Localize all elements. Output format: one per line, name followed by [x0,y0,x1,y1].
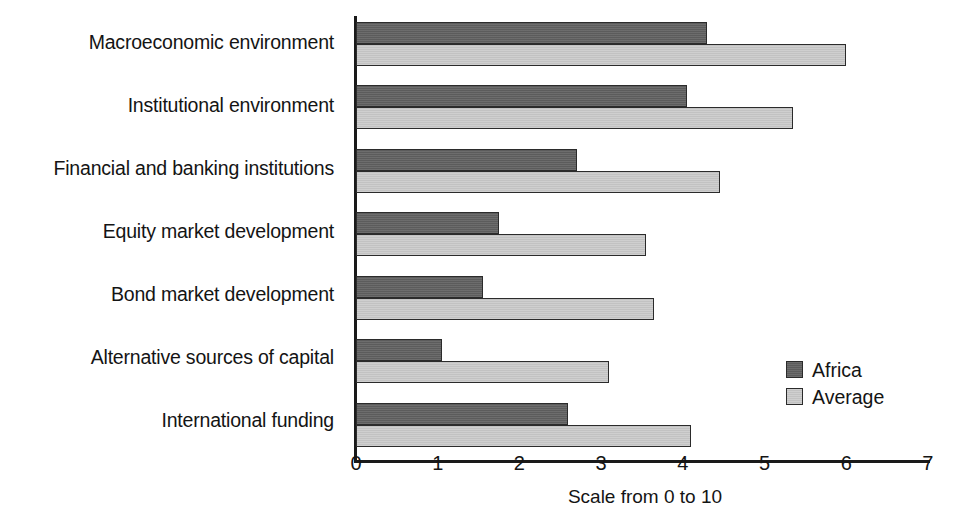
bar-average-2 [356,171,720,193]
bar-africa-1 [356,85,687,107]
bar-average-4 [356,298,654,320]
bar-average-5 [356,361,609,383]
x-tick-6: 6 [841,452,852,474]
category-label-macroeconomic-environment: Macroeconomic environment [89,31,334,53]
bar-group [356,206,934,269]
category-label-institutional-environment: Institutional environment [128,94,334,116]
bar-africa-5 [356,339,442,361]
bar-average-3 [356,234,646,256]
category-label-financial-and-banking-institutions: Financial and banking institutions [54,157,334,179]
x-tick-0: 0 [350,452,361,474]
bar-africa-6 [356,403,568,425]
bar-group [356,143,934,206]
category-axis-labels: Macroeconomic environment Institutional … [0,0,344,462]
legend-item-average: Average [786,383,926,410]
x-tick-4: 4 [677,452,688,474]
bar-africa-0 [356,22,707,44]
light-gray-swatch-icon [786,388,803,405]
bar-average-1 [356,107,793,129]
legend-label-africa: Africa [812,359,862,381]
legend: Africa Average [786,356,926,410]
bar-group [356,270,934,333]
category-label-bond-market-development: Bond market development [111,283,334,305]
bar-chart: Macroeconomic environment Institutional … [0,0,970,532]
dark-gray-swatch-icon [786,361,803,378]
legend-item-africa: Africa [786,356,926,383]
x-tick-5: 5 [759,452,770,474]
category-label-alternative-sources-of-capital: Alternative sources of capital [91,346,334,368]
x-tick-1: 1 [432,452,443,474]
category-label-international-funding: International funding [161,409,334,431]
x-tick-3: 3 [596,452,607,474]
bar-africa-2 [356,149,577,171]
bar-average-0 [356,44,846,66]
category-label-equity-market-development: Equity market development [103,220,334,242]
x-tick-7: 7 [922,452,933,474]
bar-average-6 [356,425,691,447]
legend-label-average: Average [812,386,884,408]
x-tick-2: 2 [514,452,525,474]
bar-africa-3 [356,212,499,234]
x-axis-title: Scale from 0 to 10 [356,486,934,508]
bar-group [356,16,934,79]
bar-group [356,79,934,142]
bar-africa-4 [356,276,483,298]
